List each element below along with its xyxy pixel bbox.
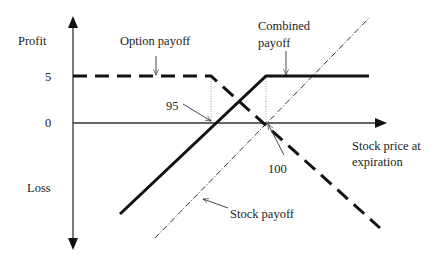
option-payoff-label: Option payoff <box>120 34 191 48</box>
strike-100-label: 100 <box>268 162 287 176</box>
y-axis-up-arrow-icon <box>68 16 78 28</box>
strike-95-pointer <box>183 104 211 121</box>
x-axis-label-1: Stock price at <box>352 139 421 153</box>
stock-payoff-label: Stock payoff <box>230 207 295 221</box>
combined-payoff-label-1: Combined <box>258 19 311 33</box>
stock-payoff-pointer <box>203 199 228 208</box>
combined-payoff-label-2: payoff <box>258 36 291 50</box>
stock-payoff-line <box>155 17 370 238</box>
option-payoff-line <box>73 76 380 228</box>
x-axis-label-2: expiration <box>352 155 403 169</box>
y-axis-profit-label: Profit <box>18 34 47 48</box>
y-tick-5: 5 <box>45 70 51 84</box>
payoff-diagram: Profit 5 0 Loss Option payoff Combined p… <box>0 0 435 258</box>
y-axis-down-arrow-icon <box>68 238 78 250</box>
x-axis <box>73 118 387 128</box>
x-axis-arrow-icon <box>375 118 387 128</box>
combined-payoff-line <box>120 76 369 214</box>
y-tick-0: 0 <box>45 116 51 130</box>
y-axis-loss-label: Loss <box>27 181 51 195</box>
y-axis <box>68 16 78 250</box>
strike-95-label: 95 <box>166 99 179 113</box>
